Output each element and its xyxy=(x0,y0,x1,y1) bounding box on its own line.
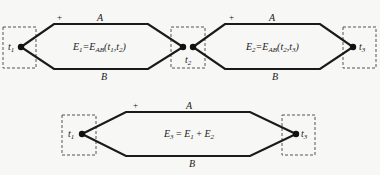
thermocouple-diagram xyxy=(0,0,380,175)
junction-label-t2: t2 xyxy=(185,55,191,67)
junction-dot-t2a xyxy=(180,44,186,50)
junction-label-t1-top: t1 xyxy=(8,42,14,54)
junction-dot-t3-bottom xyxy=(293,131,299,137)
equation-e2: E2=EAB(t2,t3) xyxy=(246,42,299,54)
polarity-plus-1: + xyxy=(57,13,62,22)
junction-label-t1-bottom: t1 xyxy=(68,129,74,141)
wire-b-label-3: B xyxy=(189,159,195,169)
wire-b-label-1: B xyxy=(101,72,107,82)
wire-b-label-2: B xyxy=(272,72,278,82)
junction-label-t3-bottom: t3 xyxy=(301,129,307,141)
wire-a-label-1: A xyxy=(97,13,103,23)
junction-dot-t1-top xyxy=(18,44,24,50)
polarity-plus-3: + xyxy=(133,101,138,110)
equation-e1: E1=EAB(t1,t2) xyxy=(73,42,126,54)
equation-e3: E3 = E1 + E2 xyxy=(164,129,214,141)
junction-dot-t2b xyxy=(190,44,196,50)
junction-label-t3-top: t3 xyxy=(359,42,365,54)
wire-a-label-2: A xyxy=(269,13,275,23)
junction-dot-t3-top xyxy=(350,44,356,50)
polarity-plus-2: + xyxy=(229,13,234,22)
junction-dot-t1-bottom xyxy=(79,131,85,137)
wire-a-label-3: A xyxy=(186,101,192,111)
